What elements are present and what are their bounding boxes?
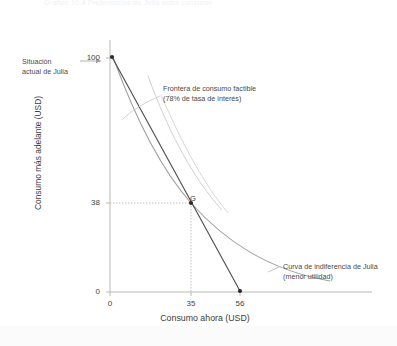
annotation-situacion-actual: Situación actual de Julia (22, 57, 88, 76)
point-marker-x-intercept (238, 289, 242, 293)
y-tick-label-38: 38 (78, 198, 100, 207)
x-axis-title: Consumo ahora (USD) (120, 313, 290, 323)
point-marker-situacion-actual (110, 55, 114, 59)
frontera-leader-line (122, 96, 160, 120)
x-tick-label-35: 35 (181, 299, 201, 308)
annotation-frontera-consumo: Frontera de consumo factible (78% de tas… (163, 84, 293, 103)
y-axis-title: Consumo más adelante (USD) (33, 73, 43, 233)
annotation-curva-indiferencia: Curva de indiferencia de Julia (menor ut… (283, 262, 397, 281)
x-tick-label-56: 56 (230, 299, 250, 308)
page-bottom-band (0, 326, 397, 346)
y-tick-label-0: 0 (78, 287, 100, 296)
x-tick-label-0: 0 (100, 299, 120, 308)
indiferencia-leader-line (268, 266, 281, 272)
chart-canvas (0, 0, 397, 346)
chart-figure: Grafico 10.4 Preferencias de Julia entre… (0, 0, 397, 346)
point-label-g: G (190, 194, 196, 203)
